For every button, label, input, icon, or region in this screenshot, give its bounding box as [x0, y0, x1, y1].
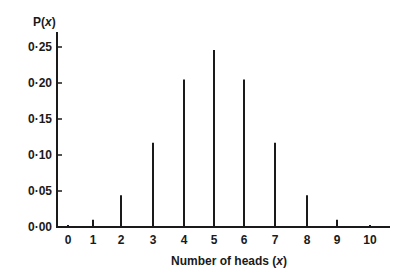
x-axis-ticks: 012345678910 [65, 233, 377, 247]
y-tick-label: 0·25 [28, 40, 52, 54]
y-tick-label: 0·00 [28, 220, 52, 234]
x-tick-label: 10 [363, 233, 377, 247]
binomial-probability-chart: P(x) 0·000·050·100·150·200·25 0123456789… [0, 0, 408, 274]
y-tick-label: 0·05 [28, 184, 52, 198]
y-axis-title: P(x) [33, 15, 56, 29]
x-tick-label: 8 [304, 233, 311, 247]
y-tick-label: 0·15 [28, 112, 52, 126]
y-tick-label: 0·10 [28, 148, 52, 162]
x-tick-label: 5 [211, 233, 218, 247]
x-tick-label: 4 [181, 233, 188, 247]
x-tick-label: 7 [272, 233, 279, 247]
x-tick-label: 9 [334, 233, 341, 247]
x-tick-label: 6 [241, 233, 248, 247]
x-tick-label: 0 [65, 233, 72, 247]
x-tick-label: 3 [150, 233, 157, 247]
y-tick-label: 0·20 [28, 76, 52, 90]
x-tick-label: 1 [90, 233, 97, 247]
probability-bars [68, 50, 370, 227]
x-axis-title: Number of heads (x) [171, 254, 287, 268]
x-tick-label: 2 [118, 233, 125, 247]
